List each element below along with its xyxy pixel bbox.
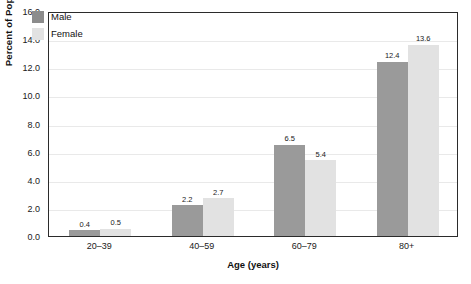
bar-male-1 [172,205,203,236]
legend: MaleFemale [32,9,83,43]
bar-value-label: 2.7 [213,188,223,197]
x-axis-title: Age (years) [48,259,458,270]
y-tick-label: 0.0 [27,232,40,242]
plot-inner: 0.40.52.22.76.55.412.413.6 [49,13,457,236]
legend-label: Male [51,11,72,22]
y-tick-label: 4.0 [27,176,40,186]
x-tick-label: 80+ [399,241,414,251]
bar-value-label: 13.6 [416,34,431,43]
y-tick-label: 12.0 [22,63,40,73]
legend-item-female: Female [32,26,83,41]
x-tick-label: 60–79 [292,241,317,251]
y-tick-label: 6.0 [27,148,40,158]
bar-value-label: 0.5 [111,218,121,227]
bar-value-label: 6.5 [285,134,295,143]
x-tick-label: 20–39 [87,241,112,251]
bar-female-2 [305,160,336,236]
plot-area: 0.40.52.22.76.55.412.413.6 [48,12,458,237]
bar-value-label: 5.4 [316,150,326,159]
gridline [49,41,457,42]
bar-value-label: 12.4 [385,51,400,60]
bar-male-2 [274,145,305,236]
legend-swatch-female [32,28,44,40]
bar-female-1 [203,198,234,236]
legend-swatch-male [32,11,44,23]
bar-female-0 [100,229,131,236]
legend-label: Female [51,28,83,39]
bar-value-label: 2.2 [182,195,192,204]
bar-chart: Percent of Population 0.02.04.06.08.010.… [0,0,471,284]
y-tick-label: 2.0 [27,204,40,214]
y-tick-label: 10.0 [22,91,40,101]
y-tick-label: 8.0 [27,120,40,130]
y-axis-ticks: 0.02.04.06.08.010.012.014.016.0 [8,12,44,237]
x-tick-label: 40–59 [189,241,214,251]
bar-value-label: 0.4 [80,220,90,229]
legend-item-male: Male [32,9,83,24]
bar-male-0 [69,230,100,236]
bar-male-3 [377,62,408,236]
bar-female-3 [408,45,439,236]
x-axis-ticks: 20–3940–5960–7980+ [48,241,458,255]
